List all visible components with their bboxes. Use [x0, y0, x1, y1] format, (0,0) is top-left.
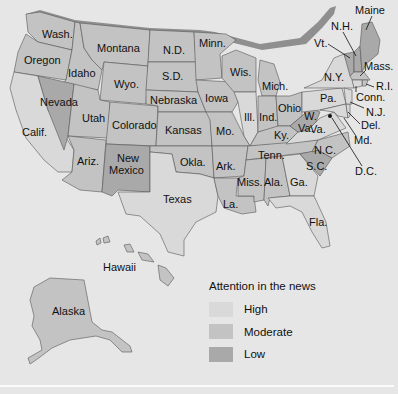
label-mo: Mo. — [216, 125, 234, 137]
label-nevada: Nevada — [40, 96, 79, 108]
label-colorado: Colorado — [112, 119, 157, 131]
label-kansas: Kansas — [165, 124, 202, 136]
label-okla: Okla. — [180, 156, 206, 168]
us-states-map: Wash. Oregon Calif. Idaho Nevada Montana… — [0, 0, 398, 394]
label-dc: D.C. — [355, 165, 377, 177]
label-del: Del. — [361, 119, 381, 131]
dc-marker — [328, 114, 332, 118]
label-ky: Ky. — [274, 129, 289, 141]
state-alaska[interactable] — [28, 278, 132, 364]
legend-item-moderate: Moderate — [209, 321, 316, 344]
label-fla: Fla. — [309, 216, 327, 228]
label-utah: Utah — [82, 112, 105, 124]
label-ala: Ala. — [264, 176, 283, 188]
legend-label-low: Low — [244, 348, 265, 360]
label-nj: N.J. — [366, 106, 386, 118]
label-wva-2: Va. — [298, 122, 314, 134]
leader-nh — [343, 32, 356, 56]
label-nebraska: Nebraska — [150, 94, 198, 106]
label-conn: Conn. — [356, 91, 385, 103]
label-ga: Ga. — [290, 176, 308, 188]
label-new-mexico-2: Mexico — [109, 164, 144, 176]
label-wyo: Wyo. — [114, 78, 139, 90]
label-pa: Pa. — [320, 92, 337, 104]
label-nc: N.C. — [314, 144, 336, 156]
label-nd: N.D. — [163, 44, 185, 56]
label-wash: Wash. — [42, 28, 73, 40]
label-md: Md. — [354, 134, 372, 146]
legend-item-low: Low — [209, 343, 316, 366]
label-ny: N.Y. — [324, 71, 344, 83]
legend-swatch-high — [209, 302, 233, 317]
leader-ri — [366, 84, 374, 87]
label-iowa: Iowa — [205, 92, 229, 104]
label-alaska: Alaska — [52, 305, 86, 317]
label-ill: Ill. — [244, 111, 255, 123]
label-tenn: Tenn. — [258, 149, 285, 161]
label-oregon: Oregon — [24, 54, 61, 66]
label-minn: Minn. — [199, 37, 226, 49]
legend-label-high: High — [244, 303, 268, 315]
label-wis: Wis. — [230, 66, 251, 78]
state-ri[interactable] — [362, 80, 368, 86]
label-wva-1: W. — [304, 110, 317, 122]
label-new-mexico-1: New — [117, 152, 139, 164]
label-la: La. — [223, 198, 238, 210]
label-nh: N.H. — [331, 20, 353, 32]
legend-title: Attention in the news — [209, 280, 316, 292]
label-idaho: Idaho — [68, 67, 96, 79]
label-maine: Maine — [355, 4, 385, 16]
label-miss: Miss. — [237, 176, 263, 188]
state-conn[interactable] — [352, 80, 362, 88]
legend-swatch-moderate — [209, 324, 233, 339]
label-calif: Calif. — [22, 126, 47, 138]
legend-item-high: High — [209, 298, 316, 321]
label-ind: Ind. — [259, 111, 277, 123]
leader-del — [348, 112, 360, 124]
label-sd: S.D. — [162, 70, 183, 82]
bottom-divider — [0, 385, 394, 387]
label-texas: Texas — [163, 193, 192, 205]
label-sc: S.C. — [306, 160, 327, 172]
label-ark: Ark. — [216, 160, 236, 172]
label-montana: Montana — [97, 42, 141, 54]
legend-label-moderate: Moderate — [244, 326, 293, 338]
label-ohio: Ohio — [278, 102, 301, 114]
label-hawaii: Hawaii — [103, 261, 136, 273]
legend-swatch-low — [209, 347, 233, 362]
label-mich: Mich. — [262, 80, 288, 92]
legend: Attention in the news High Moderate Low — [209, 280, 316, 366]
label-ariz: Ariz. — [77, 155, 99, 167]
label-vt: Vt. — [314, 37, 327, 49]
label-mass: Mass. — [364, 60, 393, 72]
